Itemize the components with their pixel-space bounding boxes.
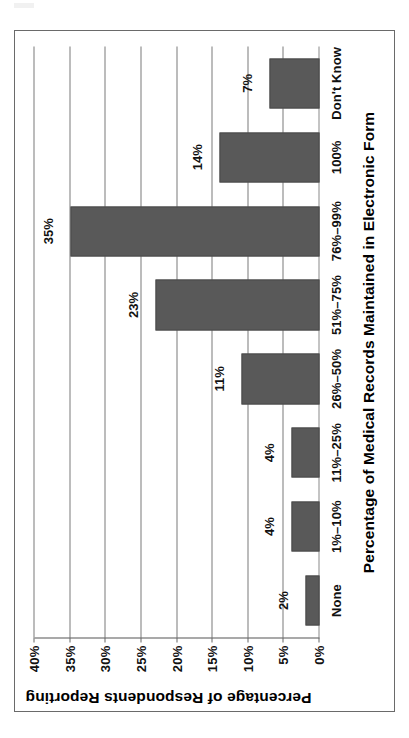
y-axis-tick <box>140 637 141 642</box>
x-axis-category-label: Don't Know <box>328 47 343 120</box>
x-axis-title: Percentage of Medical Records Maintained… <box>359 46 377 638</box>
bar-group: 14%100% <box>34 120 319 194</box>
bar[interactable] <box>291 427 320 477</box>
bar-value-label: 35% <box>40 218 55 244</box>
y-axis-tick <box>282 637 283 642</box>
scan-artifact-speck <box>14 3 34 8</box>
y-axis-tick <box>247 637 248 642</box>
bar-group: 11%26%–50% <box>34 342 319 416</box>
bar[interactable] <box>70 206 319 256</box>
y-axis-tick-label: 10% <box>240 645 255 672</box>
chart-canvas: Percentage of Respondents Reporting 0%5%… <box>16 32 393 710</box>
y-axis-tick-label: 15% <box>205 645 220 672</box>
x-axis-category-label: 26%–50% <box>328 348 343 408</box>
y-axis-tick <box>211 637 212 642</box>
y-axis-tick-label: 25% <box>133 645 148 672</box>
bar-value-label: 11% <box>211 366 226 391</box>
bar-value-label: 4% <box>261 443 276 462</box>
bar[interactable] <box>291 501 320 551</box>
bar[interactable] <box>269 58 319 108</box>
y-axis-tick-label: 40% <box>27 645 42 672</box>
y-axis-tick <box>176 637 177 642</box>
figure-frame: Percentage of Respondents Reporting 0%5%… <box>14 30 395 712</box>
y-axis-tick-label: 20% <box>169 645 184 672</box>
bar[interactable] <box>305 575 319 625</box>
x-axis-category-label: 51%–75% <box>328 275 343 335</box>
y-axis-tick <box>318 637 319 642</box>
x-axis-category-label: 11%–25% <box>328 423 343 482</box>
bar-group: 4%11%–25% <box>34 415 319 489</box>
bar-value-label: 4% <box>261 517 276 536</box>
bar-group: 23%51%–75% <box>34 268 319 342</box>
x-axis-category-label: 1%–10% <box>328 500 343 553</box>
bar[interactable] <box>155 279 319 329</box>
bar[interactable] <box>219 132 319 182</box>
bar-group: 35%76%–99% <box>34 194 319 268</box>
y-axis-tick-label: 5% <box>276 645 291 664</box>
y-axis-tick <box>104 637 105 642</box>
bar-group: 7%Don't Know <box>34 46 319 120</box>
y-axis-title: Percentage of Respondents Reporting <box>16 684 319 710</box>
bar-value-label: 7% <box>239 74 254 93</box>
y-axis-tick <box>33 637 34 642</box>
bar-value-label: 2% <box>275 591 290 610</box>
bar-value-label: 23% <box>125 292 140 318</box>
x-axis-category-label: 100% <box>328 140 343 174</box>
y-axis-title-text: Percentage of Respondents Reporting <box>25 688 311 706</box>
bar-group: 4%1%–10% <box>34 489 319 563</box>
x-axis-category-label: 76%–99% <box>328 201 343 261</box>
bar-value-label: 14% <box>189 144 204 170</box>
bar-group: 2%None <box>34 563 319 637</box>
y-axis-tick-label: 0% <box>312 645 327 664</box>
y-axis-tick-label: 35% <box>62 645 77 672</box>
plot-area: 0%5%10%15%20%25%30%35%40% 2%None4%1%–10%… <box>34 46 319 638</box>
y-axis-tick <box>69 637 70 642</box>
x-axis-category-label: None <box>328 584 343 617</box>
y-axis-tick-label: 30% <box>98 645 113 672</box>
bar-series: 2%None4%1%–10%4%11%–25%11%26%–50%23%51%–… <box>34 46 319 637</box>
bar[interactable] <box>241 353 319 403</box>
